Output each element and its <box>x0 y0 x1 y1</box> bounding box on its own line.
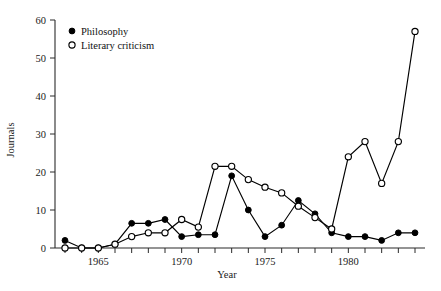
journals-by-year-line-chart: 0102030405060 1965197019751980 Journals … <box>0 0 441 291</box>
data-point-marker <box>245 207 251 213</box>
data-point-marker <box>295 203 301 209</box>
data-point-marker <box>145 220 151 226</box>
data-point-marker <box>262 234 268 240</box>
legend-label: Literary criticism <box>81 40 154 51</box>
data-point-marker <box>279 222 285 228</box>
legend-label: Philosophy <box>81 26 129 37</box>
y-tick-label: 10 <box>36 205 47 216</box>
y-tick-label: 60 <box>36 15 47 26</box>
data-point-marker <box>212 163 218 169</box>
data-point-marker <box>345 234 351 240</box>
y-tick-label: 50 <box>36 53 47 64</box>
data-point-marker <box>312 215 318 221</box>
data-point-marker <box>162 230 168 236</box>
data-point-marker <box>195 232 201 238</box>
x-tick-label: 1965 <box>88 256 109 267</box>
data-point-marker <box>379 238 385 244</box>
data-point-marker <box>229 173 235 179</box>
data-point-marker <box>329 226 335 232</box>
data-point-marker <box>362 139 368 145</box>
data-point-marker <box>395 230 401 236</box>
data-point-marker <box>362 234 368 240</box>
data-point-marker <box>62 238 68 244</box>
data-point-marker <box>229 163 235 169</box>
x-axis-title: Year <box>217 269 237 280</box>
data-point-marker <box>95 245 101 251</box>
data-point-marker <box>345 154 351 160</box>
chart-figure: 0102030405060 1965197019751980 Journals … <box>0 0 441 291</box>
data-point-marker <box>145 230 151 236</box>
data-point-marker <box>412 230 418 236</box>
data-point-marker <box>212 232 218 238</box>
data-point-marker <box>279 190 285 196</box>
data-point-marker <box>129 220 135 226</box>
y-tick-label: 0 <box>41 243 46 254</box>
data-point-marker <box>112 241 118 247</box>
data-point-marker <box>245 177 251 183</box>
y-axis-title: Journals <box>5 123 16 158</box>
data-point-marker <box>162 217 168 223</box>
y-tick-label: 30 <box>36 129 47 140</box>
x-tick-label: 1970 <box>171 256 192 267</box>
data-point-marker <box>379 180 385 186</box>
data-point-marker <box>195 224 201 230</box>
x-tick-label: 1980 <box>338 256 359 267</box>
data-point-marker <box>395 139 401 145</box>
y-tick-label: 20 <box>36 167 47 178</box>
x-tick-label: 1975 <box>255 256 276 267</box>
legend-marker <box>69 42 75 48</box>
data-point-marker <box>412 28 418 34</box>
data-point-marker <box>79 245 85 251</box>
data-point-marker <box>179 216 185 222</box>
data-point-marker <box>179 234 185 240</box>
data-point-marker <box>62 245 68 251</box>
legend-marker <box>69 28 75 34</box>
data-point-marker <box>129 234 135 240</box>
data-point-marker <box>262 184 268 190</box>
y-tick-label: 40 <box>36 91 47 102</box>
